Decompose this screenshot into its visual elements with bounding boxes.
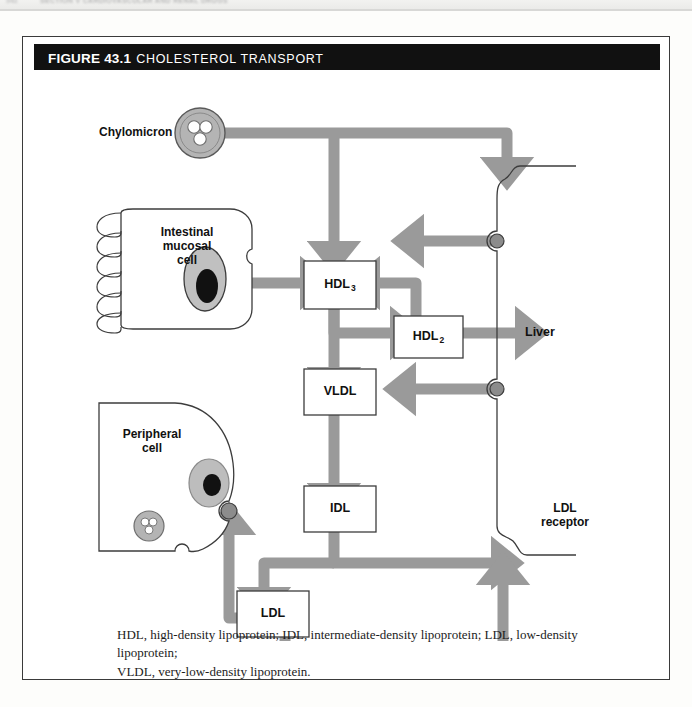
arrow-hdl3-to-hdl2 <box>334 309 394 333</box>
caption-line-1: HDL, high-density lipoprotein; IDL, inte… <box>117 626 637 663</box>
node-label-hdl3-subscript: 3 <box>350 283 356 293</box>
label-intestinal-mucosal-cell: Intestinal mucosal cell <box>144 225 230 267</box>
peripheral-cell-receptor <box>221 503 237 519</box>
intestinal-line-3: cell <box>144 253 230 267</box>
cholesterol-transport-diagram <box>23 71 669 641</box>
arrow-chylomicron-to-liver <box>223 133 507 161</box>
node-label-idl: IDL <box>304 501 376 516</box>
liver-receptor-lower <box>490 382 504 396</box>
peripheral-line-1: Peripheral <box>108 427 196 441</box>
arrow-hdl2-to-hdl3 <box>376 283 416 316</box>
liver-receptor-upper <box>490 234 504 248</box>
figure-caption: HDL, high-density lipoprotein; IDL, inte… <box>117 626 637 681</box>
figure-title-bar: FIGURE 43.1CHOLESTEROL TRANSPORT <box>34 44 660 70</box>
header-rule <box>0 9 692 11</box>
label-chylomicron: Chylomicron <box>99 125 172 139</box>
node-label-hdl2: HDL2 <box>394 329 463 345</box>
node-label-ldl: LDL <box>237 606 309 621</box>
intestinal-line-1: Intestinal <box>144 225 230 239</box>
page-number: 542 <box>6 0 18 4</box>
peripheral-cell-nucleolus <box>203 474 221 496</box>
figure-number: FIGURE 43.1 <box>48 51 131 66</box>
page-title: CHOLESTEROL TRANSPORT <box>136 52 323 66</box>
ldl-receptor-line-2: receptor <box>528 515 602 529</box>
label-ldl-receptor: LDL receptor <box>528 501 602 529</box>
intestinal-line-2: mucosal <box>144 239 230 253</box>
peripheral-line-2: cell <box>108 441 196 455</box>
label-liver: Liver <box>525 325 555 340</box>
ldl-receptor-line-1: LDL <box>528 501 602 515</box>
node-boxes <box>237 261 463 637</box>
node-label-vldl: VLDL <box>304 384 376 399</box>
peripheral-cell <box>99 403 237 552</box>
arrow-idl-to-ldl-receptor <box>334 532 495 563</box>
label-peripheral-cell: Peripheral cell <box>108 427 196 455</box>
figure-container: FIGURE 43.1CHOLESTEROL TRANSPORT <box>22 36 670 680</box>
peripheral-cell-particle <box>134 511 164 541</box>
liver-membrane <box>487 166 576 555</box>
chylomicron-particle <box>175 108 225 158</box>
running-head: 542 SECTION V CARDIOVASCULAR AND RENAL D… <box>0 0 692 11</box>
caption-line-2: VLDL, very-low-density lipoprotein. <box>117 663 637 681</box>
intestinal-cell-nucleolus <box>196 269 218 303</box>
node-label-hdl3: HDL3 <box>304 277 376 293</box>
node-label-hdl2-text: HDL <box>413 329 439 343</box>
node-label-hdl2-subscript: 2 <box>438 335 444 345</box>
diagram-canvas: Chylomicron Intestinal mucosal cell Peri… <box>23 71 669 641</box>
arrow-bus-to-ldl <box>264 563 334 591</box>
node-label-hdl3-text: HDL <box>324 277 350 291</box>
running-head-text: SECTION V CARDIOVASCULAR AND RENAL DRUGS <box>40 0 228 4</box>
